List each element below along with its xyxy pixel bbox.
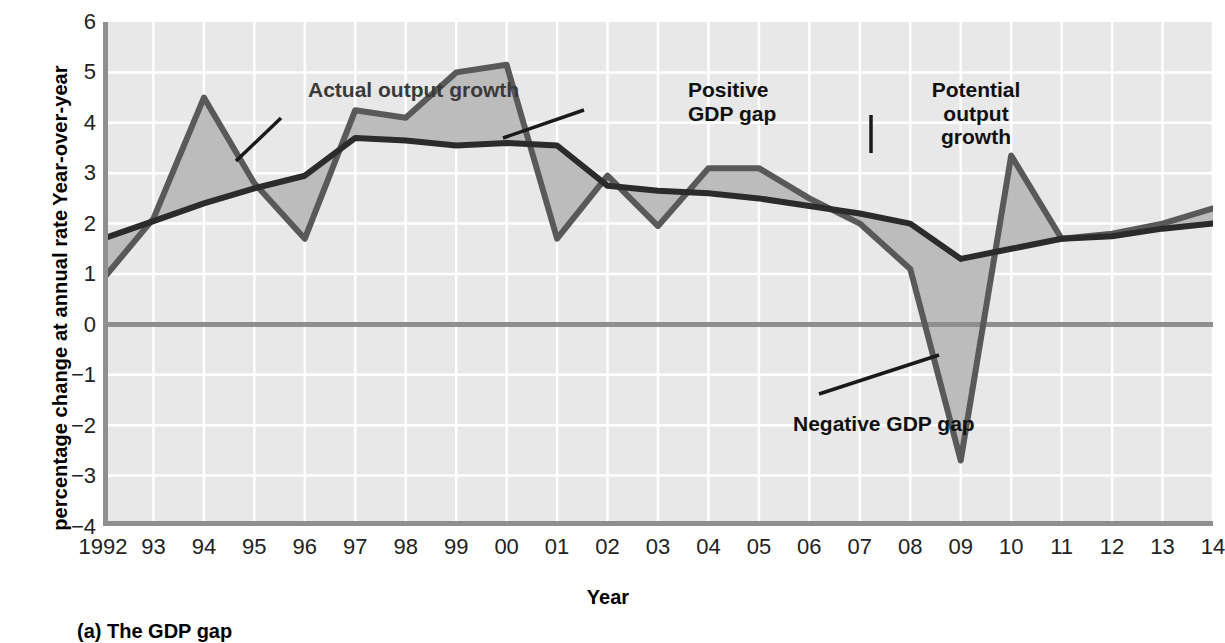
x-tick-14: 14 xyxy=(1201,536,1225,558)
x-tick-11: 11 xyxy=(1050,536,1073,558)
annotation-potential-output-growth: Potential output growth xyxy=(921,78,1031,149)
x-tick-13: 13 xyxy=(1150,536,1174,558)
x-tick-07: 07 xyxy=(848,536,872,558)
x-tick-99: 99 xyxy=(444,536,468,558)
y-tick-neg2: −2 xyxy=(66,415,96,437)
x-tick-01: 01 xyxy=(545,536,569,558)
y-tick-0: 0 xyxy=(66,314,96,336)
y-tick-3: 3 xyxy=(66,162,96,184)
y-tick-4: 4 xyxy=(66,112,96,134)
y-tick-neg1: −1 xyxy=(66,364,96,386)
gdp-gap-chart xyxy=(103,22,1213,526)
plot-area: Actual output growth Positive GDP gap Po… xyxy=(103,22,1213,526)
x-tick-05: 05 xyxy=(747,536,771,558)
figure-caption: (a) The GDP gap xyxy=(77,620,232,643)
x-tick-10: 10 xyxy=(999,536,1023,558)
y-axis-title-line1: Year-over-year xyxy=(49,65,72,205)
x-axis-title: Year xyxy=(587,586,629,609)
x-tick-94: 94 xyxy=(192,536,216,558)
x-tick-96: 96 xyxy=(293,536,317,558)
y-tick-6: 6 xyxy=(66,11,96,33)
annotation-actual-output-growth: Actual output growth xyxy=(308,78,519,102)
x-tick-95: 95 xyxy=(242,536,266,558)
y-tick-5: 5 xyxy=(66,61,96,83)
x-tick-00: 00 xyxy=(494,536,518,558)
y-tick-neg3: −3 xyxy=(66,465,96,487)
x-tick-02: 02 xyxy=(595,536,619,558)
y-tick-1: 1 xyxy=(66,263,96,285)
x-tick-12: 12 xyxy=(1100,536,1124,558)
x-tick-98: 98 xyxy=(393,536,417,558)
x-tick-03: 03 xyxy=(646,536,670,558)
x-tick-97: 97 xyxy=(343,536,367,558)
annotation-negative-gdp-gap: Negative GDP gap xyxy=(793,412,975,436)
y-tick-2: 2 xyxy=(66,213,96,235)
x-tick-93: 93 xyxy=(141,536,165,558)
x-tick-06: 06 xyxy=(797,536,821,558)
x-tick-09: 09 xyxy=(948,536,972,558)
annotation-positive-gdp-gap: Positive GDP gap xyxy=(688,78,776,125)
x-tick-1992: 1992 xyxy=(79,536,128,558)
x-tick-08: 08 xyxy=(898,536,922,558)
x-tick-04: 04 xyxy=(696,536,720,558)
